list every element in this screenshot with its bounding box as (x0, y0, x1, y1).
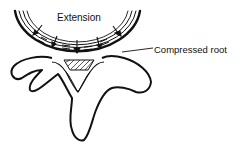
extension-label: Extension (57, 12, 101, 23)
compression-arrows (33, 25, 121, 53)
compressed-root-leader (122, 48, 153, 52)
vertebra-diagram (0, 0, 247, 152)
compressed-root-hatch (64, 60, 94, 70)
compressed-root-label: Compressed root (154, 44, 227, 55)
